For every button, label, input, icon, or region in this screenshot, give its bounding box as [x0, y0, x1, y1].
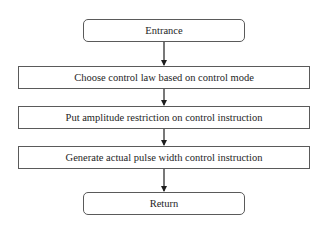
choose-control-law-label: Choose control law based on control mode: [74, 72, 254, 83]
return-label: Return: [150, 198, 179, 209]
entrance-node: Entrance: [83, 19, 245, 42]
entrance-label: Entrance: [145, 25, 182, 36]
generate-pulse-width-node: Generate actual pulse width control inst…: [18, 146, 310, 169]
generate-pulse-width-label: Generate actual pulse width control inst…: [66, 152, 263, 163]
amplitude-restriction-label: Put amplitude restriction on control ins…: [66, 112, 263, 123]
amplitude-restriction-node: Put amplitude restriction on control ins…: [18, 106, 310, 129]
choose-control-law-node: Choose control law based on control mode: [18, 66, 310, 89]
return-node: Return: [83, 192, 245, 215]
